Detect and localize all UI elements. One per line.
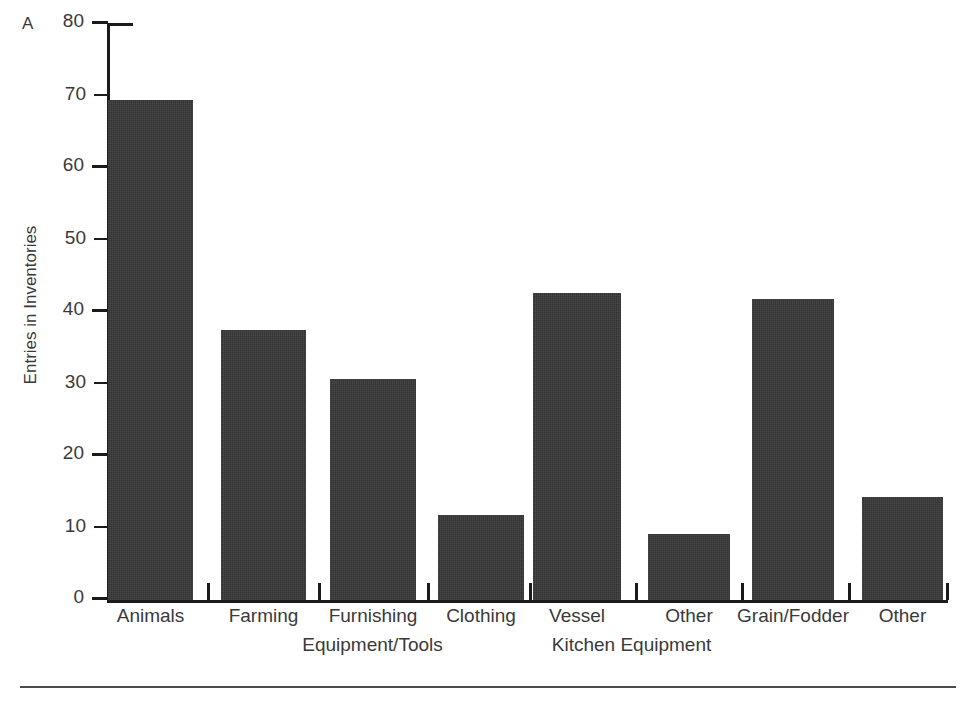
y-tick-10: 10 (94, 526, 108, 528)
y-axis-top-hook (107, 23, 133, 26)
x-axis-labels: AnimalsFarmingFurnishingClothingVesselOt… (0, 605, 972, 675)
bar (862, 497, 943, 600)
x-separator-tick-0 (207, 583, 210, 600)
x-separator-tick-6 (848, 583, 851, 600)
y-tick-label-20: 20 (63, 442, 84, 464)
y-tick-label-60: 60 (63, 154, 84, 176)
y-tick-label-40: 40 (63, 298, 84, 320)
x-separator-tick-4 (635, 583, 638, 600)
bar (221, 330, 306, 600)
bar (648, 534, 730, 600)
x-tick-label: Farming (229, 605, 299, 627)
y-tick-60: 60 (92, 165, 108, 168)
y-tick-70: 70 (94, 94, 108, 96)
bar (438, 515, 524, 600)
x-separator-tick-3 (529, 583, 532, 600)
x-tick-label: Clothing (446, 605, 516, 627)
y-tick-label-50: 50 (65, 227, 86, 249)
bar (108, 100, 193, 600)
y-tick-label-70: 70 (65, 83, 86, 105)
x-tick-label: Animals (117, 605, 185, 627)
y-tick-80: 80 (92, 21, 108, 24)
y-tick-0: 0 (92, 597, 108, 600)
x-group-label: Kitchen Equipment (552, 634, 712, 656)
x-tick-label: Other (879, 605, 927, 627)
plot-area: 01020304050607080 (108, 24, 948, 600)
panel-letter: A (22, 14, 34, 34)
x-separator-tick-7 (946, 583, 949, 600)
y-tick-label-10: 10 (65, 515, 86, 537)
bottom-rule (20, 686, 956, 688)
x-separator-tick-5 (741, 583, 744, 600)
x-separator-tick-1 (318, 583, 321, 600)
y-tick-label-80: 80 (63, 10, 84, 32)
x-tick-label: Furnishing (329, 605, 418, 627)
x-axis-line (107, 600, 948, 603)
y-tick-50: 50 (94, 238, 108, 240)
x-group-label: Equipment/Tools (302, 634, 442, 656)
x-separator-tick-2 (427, 583, 430, 600)
y-axis-title: Entries in Inventories (21, 140, 41, 470)
bar (752, 299, 834, 600)
x-tick-label: Grain/Fodder (737, 605, 849, 627)
x-tick-label: Vessel (549, 605, 605, 627)
figure-panel-a: A Entries in Inventories 010203040506070… (0, 0, 972, 707)
y-tick-30: 30 (94, 382, 108, 384)
bar (330, 379, 416, 600)
y-tick-20: 20 (92, 453, 108, 456)
bar (533, 293, 621, 600)
y-tick-40: 40 (92, 309, 108, 312)
x-tick-label: Other (665, 605, 713, 627)
y-tick-label-30: 30 (65, 371, 86, 393)
